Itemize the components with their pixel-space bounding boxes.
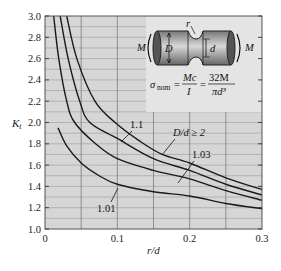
shaft-right-end xyxy=(227,31,235,65)
svg-text:Mc: Mc xyxy=(182,72,197,83)
D-label: D xyxy=(164,43,173,54)
y-tick-label: 1.4 xyxy=(28,181,42,192)
x-tick-label: 0.1 xyxy=(111,233,124,244)
y-tick-label: 1.0 xyxy=(28,224,41,235)
label-1.03: 1.03 xyxy=(192,149,210,160)
stress-concentration-chart: D d r M M σ nom = Mc I = 32M πd³ 1.1 D/d xyxy=(0,0,281,271)
label-D-d-ge-2: D/d ≥ 2 xyxy=(172,127,206,138)
y-tick-label: 1.6 xyxy=(28,160,41,171)
y-axis-label: Kt xyxy=(11,117,22,131)
y-tick-label: 2.8 xyxy=(28,32,41,43)
y-tick-label: 2.2 xyxy=(28,96,41,107)
svg-text:nom: nom xyxy=(157,83,171,92)
svg-text:32M: 32M xyxy=(209,72,230,83)
y-tick-label: 2.0 xyxy=(28,117,41,128)
x-axis-ticks: 00.10.20.3 xyxy=(42,233,268,244)
svg-text:=: = xyxy=(174,79,180,90)
x-axis-label: r/d xyxy=(147,244,160,256)
shaft-left-end xyxy=(153,31,161,65)
left-moment-label: M xyxy=(136,42,147,53)
label-1.01: 1.01 xyxy=(97,203,115,214)
svg-text:σ: σ xyxy=(150,79,156,90)
y-tick-label: 2.6 xyxy=(28,53,41,64)
right-moment-label: M xyxy=(244,42,255,53)
y-tick-label: 3.0 xyxy=(28,11,41,22)
svg-text:πd³: πd³ xyxy=(212,86,227,97)
shaft-inset: D d r M M σ nom = Mc I = 32M πd³ xyxy=(136,16,262,112)
label-1.1: 1.1 xyxy=(130,119,143,130)
svg-text:I: I xyxy=(186,86,191,97)
y-tick-label: 2.4 xyxy=(28,74,42,85)
x-tick-label: 0.3 xyxy=(255,233,268,244)
y-tick-label: 1.8 xyxy=(28,138,41,149)
y-tick-label: 1.2 xyxy=(28,202,41,213)
x-tick-label: 0 xyxy=(42,233,47,244)
svg-text:=: = xyxy=(200,79,206,90)
d-label: d xyxy=(210,43,216,54)
x-tick-label: 0.2 xyxy=(183,233,196,244)
